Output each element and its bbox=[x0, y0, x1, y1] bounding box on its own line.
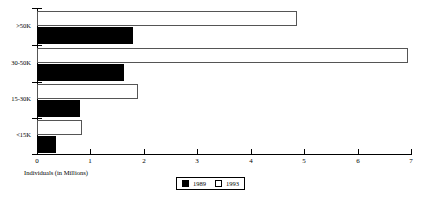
legend-entry-1989: 1989 bbox=[182, 180, 206, 188]
legend-swatch-icon-1989 bbox=[182, 180, 189, 187]
y-axis-label-gt50k: >50K bbox=[0, 22, 31, 30]
x-axis-tick-label: 7 bbox=[401, 157, 421, 166]
legend: 1989 1993 bbox=[176, 177, 245, 190]
bar-1993-lt15k bbox=[37, 120, 82, 135]
bar-1989-30-50k bbox=[37, 64, 124, 81]
x-axis-title: Individuals (in Millions) bbox=[24, 168, 88, 177]
bar-1989-15-30k bbox=[37, 100, 80, 117]
bar-1989-gt50k bbox=[37, 27, 133, 44]
x-axis-tick-label: 4 bbox=[241, 157, 261, 166]
legend-label-1993: 1993 bbox=[226, 180, 239, 188]
x-axis-tick-label: 1 bbox=[80, 157, 100, 166]
bar-1993-gt50k bbox=[37, 11, 297, 26]
x-axis-tick bbox=[411, 149, 412, 155]
y-axis-label-30-50k: 30-50K bbox=[0, 59, 31, 67]
y-axis-label-15-30k: 15-30K bbox=[0, 95, 31, 103]
x-axis-tick-label: 0 bbox=[27, 157, 47, 166]
x-axis-tick-label: 3 bbox=[187, 157, 207, 166]
y-axis-label-lt15k: <15K bbox=[0, 131, 31, 139]
legend-swatch-icon-1993 bbox=[215, 180, 222, 187]
x-axis-line bbox=[37, 154, 412, 155]
x-axis-tick-label: 2 bbox=[134, 157, 154, 166]
plot-area bbox=[37, 8, 411, 154]
legend-entry-1993: 1993 bbox=[215, 180, 239, 188]
bar-1989-lt15k bbox=[37, 136, 56, 153]
bar-1993-15-30k bbox=[37, 84, 138, 99]
bar-chart: >50K 30-50K 15-30K <15K 0 1 2 3 4 5 6 7 … bbox=[0, 0, 428, 201]
x-axis-tick-label: 6 bbox=[348, 157, 368, 166]
legend-label-1989: 1989 bbox=[193, 180, 206, 188]
bar-1993-30-50k bbox=[37, 48, 408, 63]
x-axis-tick-label: 5 bbox=[294, 157, 314, 166]
